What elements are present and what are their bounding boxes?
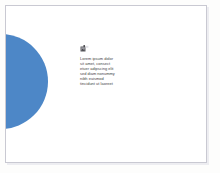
slide-shadow-bottom [7, 163, 209, 165]
blue-circle-decoration[interactable] [5, 34, 48, 129]
body-text-line: tincidunt ut laoreet [80, 81, 142, 86]
slide-canvas[interactable]: Lorem ipsum dolor sit amet, consect etue… [5, 5, 207, 163]
slide-content-block[interactable]: Lorem ipsum dolor sit amet, consect etue… [80, 45, 142, 87]
slide-shadow-right [207, 7, 209, 165]
slide-body-text: Lorem ipsum dolor sit amet, consect etue… [80, 56, 142, 87]
image-thumbnail-icon [80, 45, 89, 54]
